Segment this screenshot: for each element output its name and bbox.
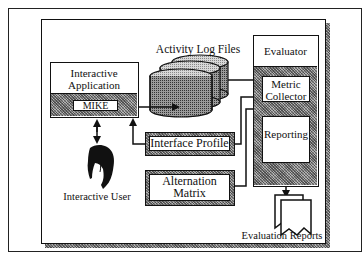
evaluation-reports-label: Evaluation Reports bbox=[240, 230, 324, 242]
metric-collector-node: Metric Collector bbox=[262, 76, 310, 102]
interface-profile-frame: Interface Profile bbox=[145, 132, 235, 156]
evaluator-label: Evaluator bbox=[254, 45, 317, 57]
interface-profile-node: Interface Profile bbox=[149, 136, 230, 151]
mike-node: MIKE bbox=[73, 100, 118, 111]
interactive-application-label-1: Interactive bbox=[51, 67, 137, 79]
metric-collector-label-1: Metric bbox=[263, 78, 309, 90]
metric-collector-label-2: Collector bbox=[263, 90, 309, 102]
user-head-icon bbox=[88, 145, 114, 189]
alternation-matrix-label-2: Matrix bbox=[150, 187, 229, 199]
evaluator-node: Evaluator Metric Collector Reporting bbox=[253, 35, 319, 187]
reporting-label: Reporting bbox=[263, 128, 309, 140]
alternation-matrix-frame: Alternation Matrix bbox=[145, 170, 235, 206]
interactive-application-label-2: Application bbox=[51, 79, 137, 91]
interactive-user-label: Interactive User bbox=[55, 191, 139, 203]
interactive-application-node: Interactive Application MIKE bbox=[50, 62, 139, 118]
evaluation-reports-icon bbox=[275, 195, 311, 235]
reporting-node: Reporting bbox=[262, 116, 310, 163]
activity-log-files-label: Activity Log Files bbox=[148, 43, 248, 55]
alternation-matrix-node: Alternation Matrix bbox=[149, 174, 230, 201]
